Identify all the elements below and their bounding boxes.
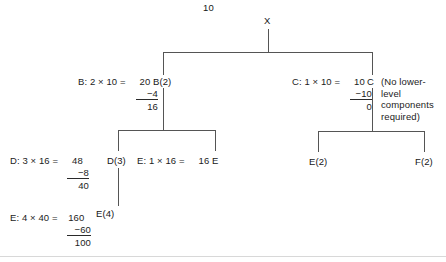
d3-to-e4-line xyxy=(118,168,119,206)
calc-d-lead: D: 3 × 16 = xyxy=(10,155,58,167)
calc-c-total: 0 xyxy=(350,101,372,113)
calc-e-bottom-block: E: 4 × 40 = 160 −60 100 xyxy=(10,212,91,248)
calc-b-total: 16 xyxy=(136,101,158,113)
diagram-canvas: 10 X B(2) C B: 2 × 10 = 20 −4 16 C: 1 × … xyxy=(0,0,446,262)
level1-right-drop-line xyxy=(372,52,373,75)
e2-drop-line xyxy=(318,131,319,152)
node-d3: D(3) xyxy=(107,155,126,166)
calc-e-bottom-product: 160 xyxy=(60,212,84,224)
calc-d-product: 48 xyxy=(61,155,83,167)
calc-e-bottom-subtrahend: −60 xyxy=(67,224,91,237)
node-e2: E(2) xyxy=(309,156,327,167)
calc-c-subtrahend: −10 xyxy=(350,88,372,101)
node-x: X xyxy=(264,15,270,26)
calc-e-mid-block: E: 1 × 16 = 16 xyxy=(137,155,209,167)
calc-d-block: D: 3 × 16 = 48 −8 40 xyxy=(10,155,89,191)
calc-e-mid-lead: E: 1 × 16 = xyxy=(137,155,185,167)
calc-e-bottom-total: 100 xyxy=(67,237,91,249)
c-stem-line xyxy=(372,88,373,131)
calc-c-product: 10 xyxy=(343,76,365,88)
b2-children-bar xyxy=(118,130,215,131)
calc-e-mid-product: 16 xyxy=(187,155,209,167)
node-f2: F(2) xyxy=(415,156,433,167)
bottom-rule xyxy=(0,256,446,257)
calc-b-subtrahend: −4 xyxy=(136,88,158,101)
calc-e-bottom-lead: E: 4 × 40 = xyxy=(10,212,58,224)
e-mid-drop-line xyxy=(215,130,216,151)
node-e-mid: E xyxy=(212,155,218,166)
node-e4: E(4) xyxy=(96,208,114,219)
calc-b-block: B: 2 × 10 = 20 −4 16 xyxy=(78,76,158,112)
calc-b-lead: B: 2 × 10 = xyxy=(78,76,126,88)
b2-stem-line xyxy=(163,88,164,130)
f2-drop-line xyxy=(424,131,425,152)
level1-connector-bar xyxy=(163,52,372,53)
no-lower-level-note: (No lower-level components required) xyxy=(381,76,443,122)
root-stem-line xyxy=(268,29,269,52)
level1-left-drop-line xyxy=(163,52,164,75)
root-value-label: 10 xyxy=(203,2,214,13)
calc-c-lead: C: 1 × 10 = xyxy=(292,76,340,88)
calc-b-product: 20 xyxy=(128,76,150,88)
c-children-bar xyxy=(318,131,424,132)
calc-c-block: C: 1 × 10 = 10 −10 0 xyxy=(292,76,372,112)
calc-d-total: 40 xyxy=(67,180,89,192)
d3-drop-line xyxy=(118,130,119,151)
calc-d-subtrahend: −8 xyxy=(67,167,89,180)
